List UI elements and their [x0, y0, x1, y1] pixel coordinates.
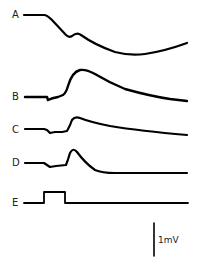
trace-e-stimulus — [24, 192, 188, 203]
trace-d — [25, 150, 187, 173]
trace-label-b: B — [12, 92, 19, 102]
trace-c — [25, 117, 187, 135]
trace-label-a: A — [12, 10, 19, 20]
trace-label-c: C — [12, 125, 19, 135]
trace-label-e: E — [12, 198, 18, 208]
scale-bar-label: 1mV — [158, 236, 179, 245]
trace-label-d: D — [12, 158, 20, 168]
waveform-figure: A B C D E 1mV — [0, 0, 200, 278]
trace-b — [25, 70, 187, 101]
trace-a — [24, 15, 187, 55]
